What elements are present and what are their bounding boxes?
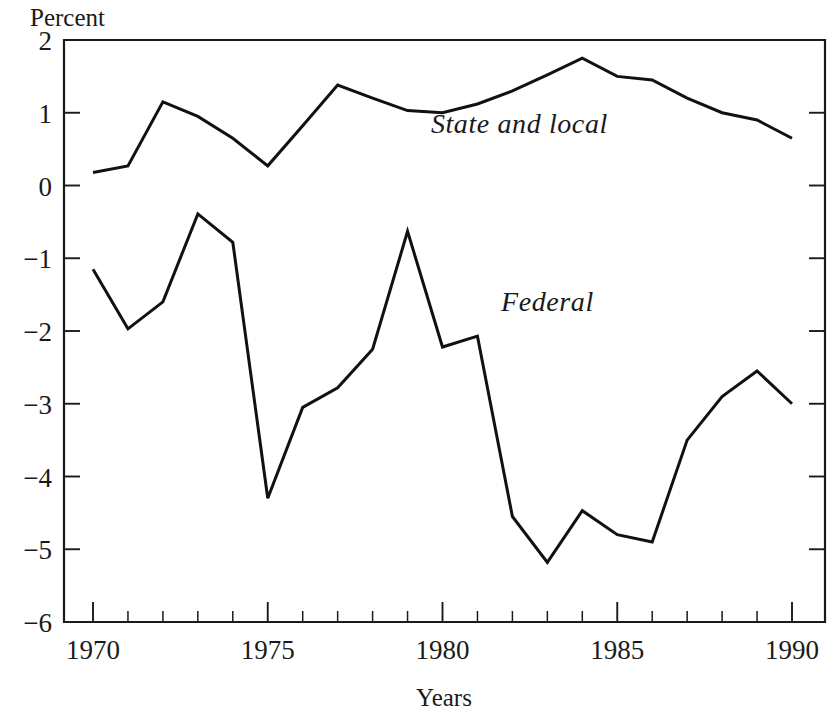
chart-figure: 210−1−2−3−4−5−6 19701975198019851990 Sta…	[0, 0, 834, 714]
x-axis-title: Years	[416, 684, 472, 711]
x-tick-label: 1970	[66, 635, 120, 665]
y-tick-label: −5	[23, 535, 52, 565]
y-tick-label: −4	[23, 463, 52, 493]
y-tick-label: −1	[23, 244, 52, 274]
y-tick-label: −2	[23, 317, 52, 347]
series-label-federal: Federal	[500, 286, 594, 317]
x-tick-label: 1980	[416, 635, 470, 665]
x-axis-ticks	[93, 602, 792, 622]
x-tick-label: 1990	[765, 635, 819, 665]
y-axis-tick-labels: 210−1−2−3−4−5−6	[23, 26, 52, 638]
line-chart: 210−1−2−3−4−5−6 19701975198019851990 Sta…	[0, 0, 834, 714]
x-tick-label: 1985	[590, 635, 644, 665]
y-tick-label: 1	[39, 99, 53, 129]
y-tick-label: 0	[39, 172, 53, 202]
y-axis-title: Percent	[30, 4, 105, 31]
x-axis-tick-labels: 19701975198019851990	[66, 635, 819, 665]
series-annotations: State and localFederal	[431, 108, 608, 317]
y-tick-label: −3	[23, 390, 52, 420]
y-axis-ticks	[64, 113, 825, 550]
series-label-state-and-local: State and local	[431, 108, 608, 139]
x-tick-label: 1975	[241, 635, 295, 665]
y-tick-label: −6	[23, 608, 52, 638]
series-line-federal	[93, 214, 792, 562]
